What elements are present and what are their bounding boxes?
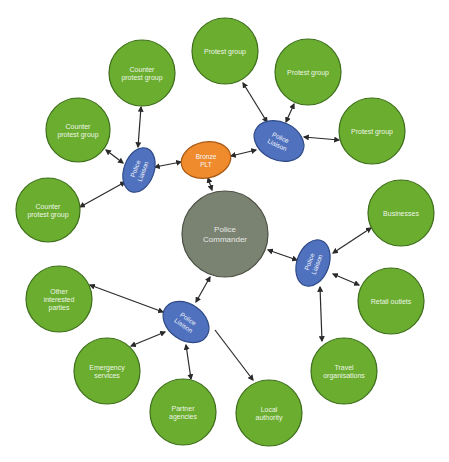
node-protest-3: Protest group [339, 98, 405, 164]
connector-liaison_bottom-emergency [131, 332, 165, 346]
node-label: Protest group [351, 128, 393, 136]
connector-liaison_left-counter_bottom [80, 182, 125, 207]
node-label: Businesses [383, 210, 419, 217]
connector-bronze-liaison_left [155, 162, 181, 167]
node-bronze: BronzePLT [178, 137, 234, 183]
connector-commander-liaison_right [268, 250, 297, 260]
node-businesses: Businesses [368, 180, 434, 246]
node-layer: PoliceCommanderBronzePLTPoliceLiaisonPol… [16, 18, 434, 446]
node-label: Partneragencies [169, 405, 198, 421]
node-emergency: Emergencyservices [74, 338, 140, 404]
connector-liaison_right-travel [320, 287, 322, 341]
node-commander: PoliceCommander [182, 191, 268, 277]
connector-liaison_left-counter_left [106, 150, 123, 163]
connector-liaison_bottom-other [90, 285, 163, 312]
node-liaison-top: PoliceLiaison [247, 113, 310, 169]
node-counter-left: Counterprotest group [46, 98, 110, 162]
connector-commander-liaison_bottom [196, 277, 210, 302]
node-counter-top: Counterprotest group [109, 40, 175, 106]
node-local-authority: Localauthority [236, 380, 302, 446]
node-partner: Partneragencies [150, 379, 216, 445]
node-other: Otherinterestedparties [26, 266, 92, 332]
connector-liaison_right-retail [333, 274, 359, 285]
stakeholder-network-diagram: PoliceCommanderBronzePLTPoliceLiaisonPol… [0, 0, 449, 462]
connector-liaison_left-counter_top [138, 107, 141, 147]
connector-commander-bronze [208, 178, 212, 190]
connector-bronze-liaison_top [231, 150, 256, 156]
connector-liaison_top-protest_1 [243, 83, 267, 122]
node-label: Retail outlets [371, 298, 412, 305]
node-counter-bottom: Counterprotest group [16, 178, 80, 242]
node-protest-2: Protest group [275, 39, 341, 105]
connector-liaison_right-businesses [333, 228, 371, 253]
connector-liaison_bottom-partner [186, 345, 191, 379]
node-protest-1: Protest group [192, 18, 258, 84]
connector-liaison_bottom-local_authority [215, 330, 253, 380]
node-travel: Travelorganisations [311, 338, 377, 404]
node-liaison-bottom: PoliceLiaison [155, 293, 217, 351]
node-retail: Retail outlets [358, 268, 424, 334]
node-label: Protest group [287, 69, 329, 77]
node-liaison-right: PoliceLiaison [290, 235, 336, 291]
node-label: Emergencyservices [89, 364, 125, 379]
node-label: Protest group [204, 48, 246, 56]
node-liaison-left: PoliceLiaison [117, 143, 161, 196]
connector-liaison_top-protest_2 [286, 104, 294, 122]
connector-liaison_top-protest_3 [304, 137, 339, 140]
